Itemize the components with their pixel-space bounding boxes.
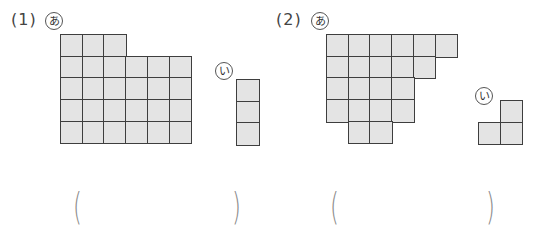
answer-open-paren-2: ( (330, 186, 339, 226)
grid-cell (392, 57, 414, 79)
grid-cell (61, 78, 83, 100)
grid-cell (370, 57, 392, 79)
grid-cell (370, 78, 392, 100)
grid-cell (148, 100, 170, 122)
grid-cell (237, 123, 259, 145)
grid-cell (61, 122, 83, 144)
grid-cell (104, 57, 126, 79)
grid-cell (370, 35, 392, 57)
grid-cell (170, 57, 192, 79)
grid-cell (170, 78, 192, 100)
grid-cell (126, 78, 148, 100)
grid-cell (83, 78, 105, 100)
answer-close-paren-2: ) (486, 186, 495, 226)
grid-cell (349, 122, 371, 144)
grid-cell (501, 123, 523, 145)
grid-cell (170, 100, 192, 122)
grid-cell (414, 57, 436, 79)
problem-1-number: (1) (11, 11, 37, 29)
answer-field-1[interactable] (90, 192, 225, 222)
problem-2-number: (2) (276, 11, 302, 29)
grid-cell (170, 122, 192, 144)
grid-cell (61, 35, 83, 57)
grid-cell (61, 57, 83, 79)
grid-cell (479, 123, 501, 145)
grid-cell (414, 35, 436, 57)
grid-cell (349, 78, 371, 100)
shape-a-label-1: あ (45, 12, 63, 30)
grid-cell (349, 57, 371, 79)
grid-cell (370, 100, 392, 122)
answer-field-2[interactable] (347, 192, 482, 222)
grid-cell (83, 57, 105, 79)
grid-cell (392, 35, 414, 57)
grid-cell (392, 100, 414, 122)
grid-cell (83, 35, 105, 57)
grid-cell (327, 35, 349, 57)
grid-cell (148, 122, 170, 144)
shape-a-label-2: あ (311, 12, 329, 30)
grid-cell (104, 100, 126, 122)
grid-cell (436, 35, 458, 57)
grid-cell (148, 78, 170, 100)
grid-cell (126, 57, 148, 79)
grid-cell (104, 122, 126, 144)
grid-cell (392, 78, 414, 100)
grid-cell (327, 57, 349, 79)
grid-cell (104, 78, 126, 100)
grid-cell (501, 101, 523, 123)
answer-open-paren-1: ( (73, 186, 82, 226)
grid-cell (349, 100, 371, 122)
grid-cell (83, 100, 105, 122)
shape-b-label-1: い (215, 62, 233, 80)
grid-cell (237, 80, 259, 102)
grid-cell (148, 57, 170, 79)
shape-b-label-2: い (475, 87, 493, 105)
grid-cell (349, 35, 371, 57)
grid-cell (370, 122, 392, 144)
grid-cell (83, 122, 105, 144)
answer-close-paren-1: ) (232, 186, 241, 226)
grid-cell (237, 102, 259, 124)
grid-cell (327, 100, 349, 122)
grid-cell (104, 35, 126, 57)
grid-cell (126, 122, 148, 144)
grid-cell (126, 100, 148, 122)
grid-cell (61, 100, 83, 122)
grid-cell (327, 78, 349, 100)
